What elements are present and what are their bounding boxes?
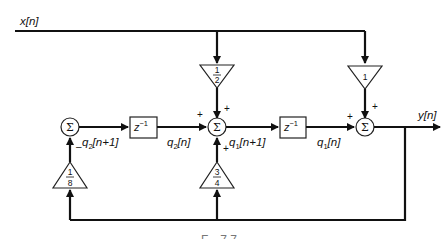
label-q1-next: q1[n+1] — [229, 136, 266, 151]
svg-text:Σ: Σ — [213, 121, 221, 134]
sum3-top-plus: + — [372, 101, 378, 112]
gain-half-triangle: 1 2 — [200, 65, 234, 88]
summer-3: Σ — [356, 118, 374, 136]
sum2-left-plus: + — [197, 109, 203, 120]
svg-text:1: 1 — [68, 167, 73, 177]
svg-text:1: 1 — [215, 65, 220, 75]
gain-eighth-triangle: 1 8 — [53, 162, 87, 188]
summer-2: Σ — [208, 118, 226, 136]
svg-text:2: 2 — [215, 75, 220, 85]
output-label: y[n] — [417, 109, 437, 121]
svg-text:8: 8 — [68, 178, 73, 188]
summer-1: Σ — [61, 118, 79, 136]
svg-text:4: 4 — [215, 178, 220, 188]
delay-2-block: z−1 — [280, 117, 306, 138]
svg-text:3: 3 — [215, 167, 220, 177]
label-q2-next: q2[n+1] — [82, 136, 119, 151]
gain-three-quarters-triangle: 3 4 — [200, 162, 234, 188]
label-q2: q2[n] — [167, 136, 191, 151]
feedback-wire — [70, 127, 405, 220]
label-q1: q1[n] — [317, 136, 341, 151]
sum3-left-plus: + — [347, 111, 353, 122]
delay-1-block: z−1 — [130, 117, 157, 138]
figure-caption: F... 7.7... — [201, 233, 247, 239]
gain-one-triangle: 1 — [348, 66, 382, 89]
sum2-top-plus: + — [224, 103, 230, 114]
input-label: x[n] — [19, 15, 39, 27]
signal-flow-diagram: x[n] 1 2 1 Σ – q2[n+1] z−1 q2[n] + Σ + — [0, 0, 448, 239]
svg-text:Σ: Σ — [361, 121, 369, 134]
input-wire — [15, 31, 365, 63]
svg-text:1: 1 — [363, 72, 368, 82]
svg-text:Σ: Σ — [66, 121, 74, 134]
